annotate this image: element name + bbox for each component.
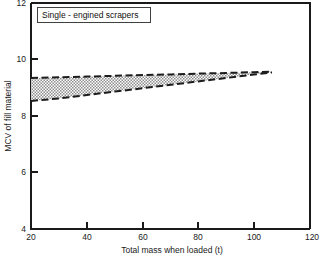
y-tick-label-12: 12: [17, 0, 27, 8]
x-tick-label-80: 80: [193, 232, 203, 242]
x-tick-label-120: 120: [305, 232, 319, 242]
chart-svg: 12 10 8 6 4 20 40 60 80 100 120 Total ma…: [0, 0, 320, 258]
chart-figure: 12 10 8 6 4 20 40 60 80 100 120 Total ma…: [0, 0, 320, 258]
x-axis-title: Total mass when loaded (t): [121, 245, 223, 255]
chart-title: Single - engined scrapers: [42, 10, 138, 20]
y-axis-title: MCV of fill material: [3, 80, 13, 151]
y-tick-label-6: 6: [21, 167, 26, 177]
chart-title-box: Single - engined scrapers: [37, 7, 150, 22]
x-tick-label-60: 60: [138, 232, 148, 242]
figure-background: [0, 0, 320, 258]
y-tick-label-8: 8: [21, 111, 26, 121]
y-tick-label-10: 10: [17, 54, 27, 64]
x-tick-label-20: 20: [26, 232, 36, 242]
x-tick-label-100: 100: [247, 232, 261, 242]
x-tick-label-40: 40: [82, 232, 92, 242]
